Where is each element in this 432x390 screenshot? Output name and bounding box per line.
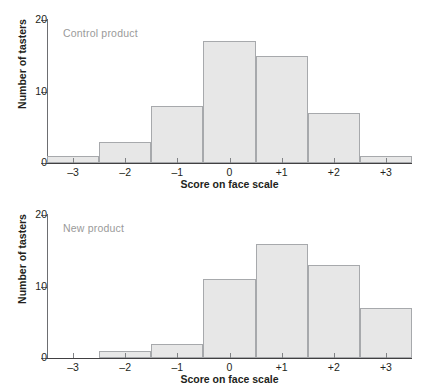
bar bbox=[203, 41, 255, 163]
bar bbox=[308, 265, 360, 358]
x-axis-tick-label: +1 bbox=[262, 166, 302, 178]
y-axis-tick-label-wrap: 0 bbox=[0, 163, 47, 164]
y-axis-tick-label: 20 bbox=[13, 13, 47, 25]
x-axis-tick bbox=[282, 353, 283, 358]
plot-area bbox=[47, 20, 412, 163]
y-axis-tick-label: 20 bbox=[13, 208, 47, 220]
x-axis-tick bbox=[386, 158, 387, 163]
x-axis-tick-label: –2 bbox=[105, 361, 145, 373]
bar-series bbox=[47, 20, 412, 163]
x-axis-tick-label: +2 bbox=[314, 361, 354, 373]
chart-panel-control: Control product Number of tasters Score … bbox=[0, 0, 432, 195]
y-axis-tick-label-wrap: 20 bbox=[0, 20, 47, 21]
x-axis-tick-label: –1 bbox=[157, 166, 197, 178]
x-axis-tick-label: +1 bbox=[262, 361, 302, 373]
x-axis-tick-label: +2 bbox=[314, 166, 354, 178]
plot-area bbox=[47, 215, 412, 358]
x-axis-tick-label: –1 bbox=[157, 361, 197, 373]
x-axis-tick bbox=[230, 353, 231, 358]
x-axis-label: Score on face scale bbox=[47, 178, 412, 190]
x-axis-tick-label: 0 bbox=[210, 361, 250, 373]
bar bbox=[256, 56, 308, 163]
x-axis-tick bbox=[177, 353, 178, 358]
x-axis-tick bbox=[125, 158, 126, 163]
x-axis-tick bbox=[230, 158, 231, 163]
x-axis-tick bbox=[334, 158, 335, 163]
bar bbox=[308, 113, 360, 163]
y-axis-tick-label-wrap: 10 bbox=[0, 287, 47, 288]
x-axis-tick bbox=[125, 353, 126, 358]
x-axis-label: Score on face scale bbox=[47, 373, 412, 385]
y-axis-tick-label: 10 bbox=[13, 85, 47, 97]
x-axis-line bbox=[47, 163, 412, 164]
y-axis-tick-label: 0 bbox=[13, 351, 47, 363]
bar bbox=[256, 244, 308, 358]
y-axis-tick-label-wrap: 10 bbox=[0, 92, 47, 93]
bar bbox=[360, 308, 412, 358]
x-axis-tick-label: +3 bbox=[366, 361, 406, 373]
x-axis-tick-label: –3 bbox=[53, 166, 93, 178]
x-axis-tick-label: 0 bbox=[210, 166, 250, 178]
x-axis-tick bbox=[386, 353, 387, 358]
bar bbox=[203, 279, 255, 358]
x-axis-line bbox=[47, 358, 412, 359]
chart-panel-new: New product Number of tasters Score on f… bbox=[0, 195, 432, 390]
bar bbox=[151, 106, 203, 163]
bar-series bbox=[47, 215, 412, 358]
x-axis-tick-label: –2 bbox=[105, 166, 145, 178]
x-axis-tick bbox=[73, 353, 74, 358]
x-axis-tick bbox=[334, 353, 335, 358]
y-axis-tick-label-wrap: 20 bbox=[0, 215, 47, 216]
x-axis-tick bbox=[73, 158, 74, 163]
y-axis-tick-label: 0 bbox=[13, 156, 47, 168]
figure: Control product Number of tasters Score … bbox=[0, 0, 432, 390]
x-axis-tick-label: –3 bbox=[53, 361, 93, 373]
y-axis-tick-label: 10 bbox=[13, 280, 47, 292]
x-axis-tick bbox=[282, 158, 283, 163]
x-axis-tick-label: +3 bbox=[366, 166, 406, 178]
x-axis-tick bbox=[177, 158, 178, 163]
y-axis-tick-label-wrap: 0 bbox=[0, 358, 47, 359]
